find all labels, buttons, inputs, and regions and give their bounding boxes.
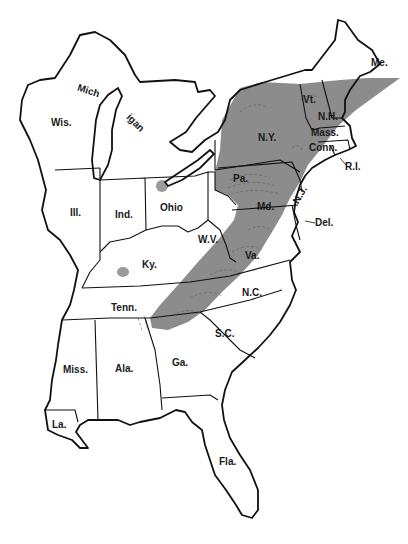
label-connecticut: Conn. <box>309 143 337 153</box>
label-indiana: Ind. <box>115 210 133 220</box>
label-ohio: Ohio <box>160 203 183 213</box>
label-pennsylvania: Pa. <box>233 174 248 184</box>
label-mississippi: Miss. <box>63 365 88 375</box>
label-new-york: N.Y. <box>258 133 276 143</box>
label-louisiana: La. <box>52 420 66 430</box>
lake-erie <box>165 150 214 186</box>
label-new-hampshire: N.H. <box>318 112 338 122</box>
del-pointer-line <box>305 221 315 223</box>
label-kentucky: Ky. <box>142 260 157 270</box>
label-illinois: Ill. <box>70 208 81 218</box>
label-alabama: Ala. <box>115 364 133 374</box>
label-georgia: Ga. <box>172 358 188 368</box>
label-west-virginia: W.V. <box>198 235 218 245</box>
eastern-us-map <box>0 0 408 544</box>
label-rhode-island: R.I. <box>345 162 361 172</box>
label-virginia: Va. <box>245 251 259 261</box>
lake-michigan <box>92 88 122 180</box>
label-tennessee: Tenn. <box>111 303 137 313</box>
label-maryland: Md. <box>257 202 274 212</box>
label-maine: Me. <box>371 58 388 68</box>
label-massachusetts: Mass. <box>311 128 339 138</box>
kentucky-spot <box>117 267 129 277</box>
label-florida: Fla. <box>219 457 236 467</box>
label-vermont: Vt. <box>303 95 316 105</box>
label-delaware: Del. <box>315 218 333 228</box>
label-wisconsin: Wis. <box>51 118 71 128</box>
label-south-carolina: S.C. <box>215 329 234 339</box>
label-north-carolina: N.C. <box>242 288 262 298</box>
